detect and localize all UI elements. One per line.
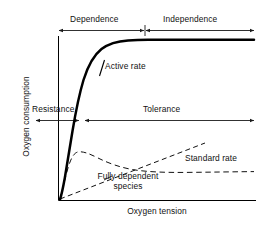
curve-label-standard-rate: Standard rate bbox=[185, 154, 237, 163]
active-rate-leader bbox=[100, 60, 105, 76]
top-zone-arrows bbox=[59, 25, 254, 36]
curve-label-fully-dependent-species-line2: species bbox=[88, 182, 168, 191]
zone-label-tolerance: Tolerance bbox=[143, 105, 180, 114]
curve-label-fully-dependent-species-line1: Fully dependent bbox=[88, 172, 168, 181]
oxygen-consumption-figure: Oxygen consumption Oxygen tension Depend… bbox=[0, 0, 258, 236]
zone-label-dependence: Dependence bbox=[70, 15, 119, 24]
y-axis-label: Oxygen consumption bbox=[22, 36, 31, 196]
zone-label-resistance: Resistance bbox=[32, 105, 74, 114]
curve-label-active-rate: Active rate bbox=[105, 62, 146, 71]
x-axis-label: Oxygen tension bbox=[58, 207, 256, 216]
chart-canvas bbox=[0, 0, 258, 236]
zone-label-independence: Independence bbox=[163, 15, 217, 24]
